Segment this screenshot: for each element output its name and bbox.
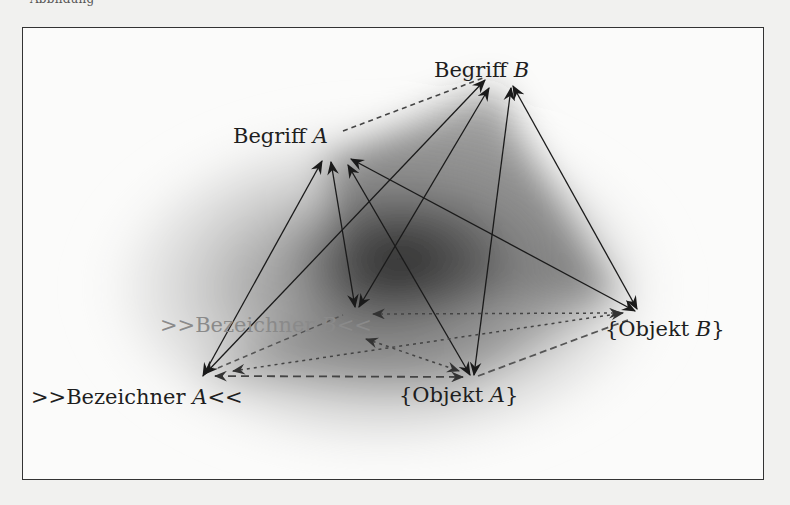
diagram-frame: Begriff A Begriff B >>Bezeichner B<< >>B…: [22, 27, 764, 480]
node-bezeichner-a: >>Bezeichner A<<: [31, 385, 243, 409]
page-header-fragment: Abbildung: [30, 0, 94, 6]
node-bezeichner-b: >>Bezeichner B<<: [160, 313, 372, 337]
node-objekt-a: {Objekt A}: [399, 383, 518, 407]
node-objekt-b: {Objekt B}: [605, 317, 725, 341]
shading: [83, 88, 683, 468]
node-begriff-a: Begriff A: [233, 124, 328, 148]
diagram-canvas: [23, 28, 764, 480]
node-begriff-b: Begriff B: [434, 58, 529, 82]
